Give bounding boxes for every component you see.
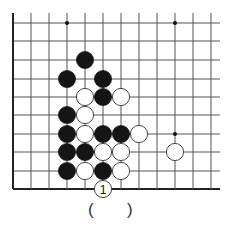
star-point [173,132,177,136]
white-stone-icon [76,88,93,105]
black-stone [58,162,75,179]
black-stone-icon [94,162,111,179]
star-point [65,21,69,25]
black-stone-icon [94,70,111,87]
black-stone [94,162,111,179]
white-stone [76,162,93,179]
white-stone-icon [76,106,93,123]
white-stone [130,125,147,142]
white-stone-icon [112,143,129,160]
white-stone-icon [112,162,129,179]
white-stone-icon [76,125,93,142]
white-stone-icon [166,143,183,160]
black-stone-icon [58,125,75,142]
black-stone-icon [76,51,93,68]
black-stone [94,88,111,105]
white-stone-icon [94,143,111,160]
black-stone [76,143,93,160]
answer-close-paren: ) [127,200,133,220]
white-stone [76,106,93,123]
black-stone [58,143,75,160]
white-stone [112,143,129,160]
white-stone-icon [130,125,147,142]
black-stone-icon [76,143,93,160]
white-stone-icon [112,88,129,105]
black-stone-icon [58,143,75,160]
black-stone-icon [58,70,75,87]
white-stone: 1 [94,180,111,197]
black-stone [58,125,75,142]
black-stone-icon [94,88,111,105]
black-stone-icon [94,125,111,142]
white-stone-icon [76,162,93,179]
white-stone [76,88,93,105]
white-stone [94,143,111,160]
go-board-diagram: 1 [0,0,229,229]
black-stone [58,70,75,87]
black-stone [112,125,129,142]
black-stone [58,106,75,123]
answer-open-paren: ( [88,200,94,220]
black-stone [76,51,93,68]
white-stone [166,143,183,160]
black-stone-icon [58,106,75,123]
white-stone [76,125,93,142]
black-stone [94,70,111,87]
star-point [173,21,177,25]
black-stone-icon [58,162,75,179]
black-stone [94,125,111,142]
white-stone [112,88,129,105]
white-stone [112,162,129,179]
black-stone-icon [112,125,129,142]
move-number-label: 1 [100,183,107,197]
